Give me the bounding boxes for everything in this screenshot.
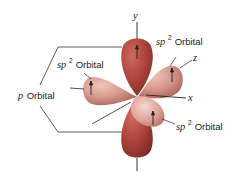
- svg-text:Orbital: Orbital: [24, 90, 55, 101]
- sp2-label-top-right: sp 2 Orbital: [156, 34, 203, 47]
- orbital-diagram: y z x sp 2 Orbital sp 2 Orbital sp 2 Orb…: [0, 0, 243, 175]
- svg-text:Orbital: Orbital: [192, 121, 223, 132]
- sp2-label-bottom-right: sp 2 Orbital: [176, 119, 223, 132]
- leader-sp2-left: [84, 73, 91, 79]
- svg-text:Orbital: Orbital: [172, 36, 203, 47]
- z-axis-label: z: [192, 52, 197, 63]
- y-axis-label: y: [132, 10, 138, 21]
- sp2-label-left: sp 2 Orbital: [57, 57, 104, 70]
- leader-z: [180, 60, 192, 68]
- p-orbital-label: p Orbital: [17, 90, 55, 101]
- leader-sp2-bottom-right: [162, 119, 175, 124]
- svg-text:sp: sp: [57, 59, 66, 70]
- svg-text:sp: sp: [176, 121, 185, 132]
- svg-text:sp: sp: [156, 36, 165, 47]
- z-axis-back: [70, 88, 84, 89]
- x-axis-label: x: [187, 92, 193, 103]
- svg-text:p: p: [17, 90, 23, 101]
- leader-sp2-top-right: [170, 57, 176, 66]
- svg-text:Orbital: Orbital: [73, 59, 104, 70]
